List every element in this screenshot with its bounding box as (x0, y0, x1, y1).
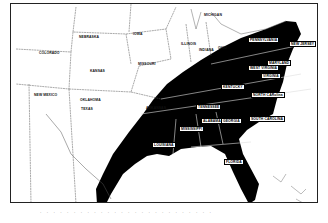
state-label: NEBRASKA (79, 35, 99, 39)
state-label: PENNSYLVANIA (248, 37, 279, 43)
state-label: FLORIDA (224, 159, 244, 165)
state-label: KANSAS (90, 69, 105, 73)
us-map (11, 4, 318, 203)
map-frame: COLORADO NEBRASKA IOWA KANSAS MISSOURI N… (10, 3, 318, 203)
state-label: TEXAS (81, 107, 93, 111)
state-label: GEORGIA (221, 118, 242, 124)
state-label: INDIANA (199, 48, 214, 52)
state-label: ILLINOIS (181, 42, 196, 46)
state-label: TENNESSEE (196, 104, 221, 110)
state-label: MICHIGAN (204, 13, 222, 17)
state-label: ALABAMA (201, 118, 223, 124)
state-label: OHIO (218, 46, 227, 50)
state-label: LOUISIANA (152, 142, 176, 148)
state-label: SOUTH CAROLINA (249, 116, 285, 122)
state-label: VIRGINIA (261, 73, 281, 79)
state-label: MISSISSIPPI (179, 126, 204, 132)
state-label: MISSOURI (138, 62, 156, 66)
state-label: NORTH CARolina (251, 92, 285, 98)
state-label: NEW JERSEY (289, 41, 316, 47)
state-label: ARKANSAS (146, 106, 166, 110)
map-caption: . . . . . . . . . . . . . . . . . . . . … (40, 208, 290, 214)
state-label: IOWA (133, 32, 142, 36)
state-label: KENTUCKY (221, 84, 245, 90)
state-label: OKLAHOMA (80, 98, 101, 102)
state-label: COLORADO (39, 51, 60, 55)
state-label: WEST VIRGINIA (248, 65, 279, 71)
state-label: NEW MEXICO (34, 93, 57, 97)
